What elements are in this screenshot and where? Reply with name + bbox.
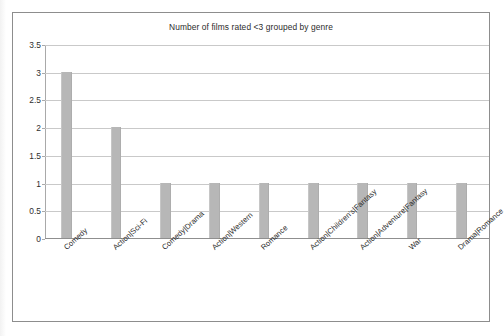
bar — [456, 183, 467, 238]
y-axis-tick-label: 1 — [36, 179, 41, 189]
plot-area: 00.511.522.533.5 ComedyAction|Sci-FiCome… — [45, 45, 489, 239]
y-axis-tick-label: 3.5 — [29, 40, 41, 50]
y-axis-tick-mark — [42, 239, 45, 240]
bar — [111, 127, 122, 238]
gridline — [45, 100, 489, 101]
bar — [160, 183, 171, 238]
bar — [209, 183, 220, 238]
gridline — [45, 73, 489, 74]
y-axis-tick-mark — [42, 100, 45, 101]
y-axis-tick-label: 2 — [36, 123, 41, 133]
y-axis-tick-mark — [42, 45, 45, 46]
y-axis-tick-label: 2.5 — [29, 95, 41, 105]
y-axis-tick-mark — [42, 211, 45, 212]
y-axis-tick-mark — [42, 73, 45, 74]
gridline — [45, 45, 489, 46]
bar — [308, 183, 319, 238]
y-axis-tick-label: 1.5 — [29, 151, 41, 161]
y-axis-tick-label: 0.5 — [29, 206, 41, 216]
chart-frame: Number of films rated <3 grouped by genr… — [12, 12, 490, 322]
chart-title: Number of films rated <3 grouped by genr… — [13, 22, 489, 32]
y-axis-tick-mark — [42, 128, 45, 129]
bar — [61, 72, 72, 238]
y-axis-tick-label: 3 — [36, 68, 41, 78]
y-axis-tick-label: 0 — [36, 234, 41, 244]
y-axis-tick-mark — [42, 184, 45, 185]
y-axis-tick-mark — [42, 156, 45, 157]
y-axis-spine — [45, 45, 46, 239]
bar — [259, 183, 270, 238]
scan-edge-gradient — [0, 0, 6, 336]
